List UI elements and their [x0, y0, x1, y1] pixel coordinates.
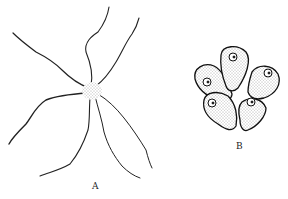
cell-3 [248, 66, 279, 99]
panel-a-label: A [92, 181, 99, 191]
panel-b-label: B [236, 141, 243, 151]
figure-illustration [0, 0, 288, 199]
panel-b-drawing [195, 47, 279, 131]
cell-body [82, 82, 102, 100]
panel-a-drawing [9, 7, 152, 178]
cell-processes [9, 7, 152, 178]
cell-4 [204, 93, 237, 130]
